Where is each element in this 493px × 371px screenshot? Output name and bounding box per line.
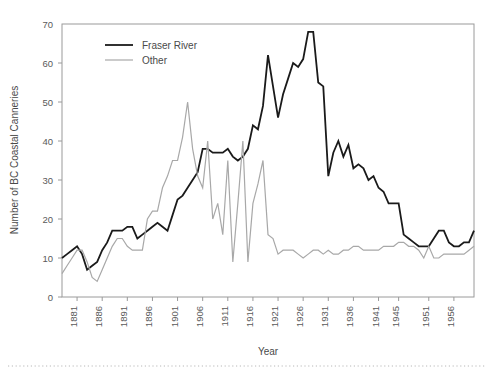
x-tick-label: 1886 [93, 306, 104, 327]
y-axis-title: Number of BC Coastal Canneries [9, 86, 20, 234]
figure-container: 010203040506070 188118861891189619011906… [0, 0, 493, 371]
y-tick-label: 10 [42, 253, 53, 264]
legend-label-fraser-river: Fraser River [142, 40, 198, 51]
x-tick-label: 1945 [390, 306, 401, 327]
x-tick-label: 1931 [319, 306, 330, 327]
y-axis: 010203040506070 [42, 19, 62, 303]
line-chart: 010203040506070 188118861891189619011906… [0, 0, 493, 371]
y-tick-label: 50 [42, 97, 53, 108]
series-line-other [62, 102, 474, 281]
series-layer [62, 32, 474, 282]
y-tick-label: 0 [48, 292, 53, 303]
x-tick-label: 1881 [68, 306, 79, 327]
x-tick-label: 1916 [244, 306, 255, 327]
y-tick-label: 70 [42, 19, 53, 30]
x-axis-title: Year [258, 346, 279, 357]
x-tick-label: 1941 [370, 306, 381, 327]
x-tick-label: 1926 [294, 306, 305, 327]
x-tick-label: 1936 [344, 306, 355, 327]
y-tick-label: 40 [42, 136, 53, 147]
x-tick-label: 1906 [194, 306, 205, 327]
x-tick-label: 1896 [143, 306, 154, 327]
y-tick-label: 20 [42, 214, 53, 225]
x-axis: 1881188618911896190119061911191619211926… [68, 297, 456, 327]
y-tick-label: 30 [42, 175, 53, 186]
plot-frame [62, 24, 474, 297]
y-tick-label: 60 [42, 58, 53, 69]
x-tick-label: 1951 [420, 306, 431, 327]
x-tick-label: 1901 [169, 306, 180, 327]
x-tick-label: 1891 [118, 306, 129, 327]
x-tick-label: 1921 [269, 306, 280, 327]
chart-legend: Fraser RiverOther [105, 40, 198, 66]
legend-label-other: Other [142, 55, 168, 66]
x-tick-label: 1956 [445, 306, 456, 327]
x-tick-label: 1911 [219, 306, 230, 326]
